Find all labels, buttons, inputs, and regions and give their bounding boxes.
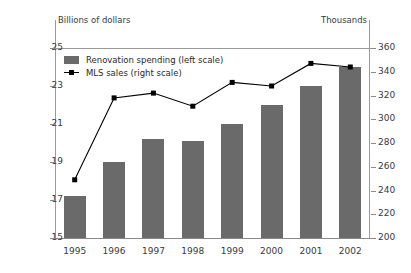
mls-marker-1998	[190, 104, 195, 109]
mls-marker-2000	[269, 84, 274, 89]
x-tick-label-1995: 1995	[53, 246, 97, 256]
x-tick-label-1996: 1996	[92, 246, 136, 256]
x-tick-label-1998: 1998	[171, 246, 215, 256]
legend-item-mls-sales: MLS sales (right scale)	[64, 67, 223, 78]
mls-marker-1997	[151, 91, 156, 96]
x-tick-label-2002: 2002	[328, 246, 372, 256]
mls-marker-1995	[72, 177, 77, 182]
bar-swatch-icon	[64, 56, 79, 64]
line-series-layer	[0, 0, 411, 273]
line-marker-icon	[64, 69, 79, 77]
legend-label-mls-sales: MLS sales (right scale)	[86, 68, 182, 78]
mls-marker-1996	[112, 95, 117, 100]
mls-sales-line	[75, 63, 351, 179]
legend-label-renovation-spending: Renovation spending (left scale)	[86, 55, 223, 65]
mls-marker-2002	[348, 65, 353, 70]
chart-legend: Renovation spending (left scale) MLS sal…	[64, 54, 223, 80]
x-tick-label-2001: 2001	[289, 246, 333, 256]
x-tick-label-1997: 1997	[131, 246, 175, 256]
chart-container: Billions of dollars Thousands 1517192123…	[0, 0, 411, 273]
x-tick-label-1999: 1999	[210, 246, 254, 256]
mls-marker-1999	[230, 80, 235, 85]
mls-marker-2001	[308, 61, 313, 66]
x-tick-label-2000: 2000	[250, 246, 294, 256]
legend-item-renovation-spending: Renovation spending (left scale)	[64, 54, 223, 65]
